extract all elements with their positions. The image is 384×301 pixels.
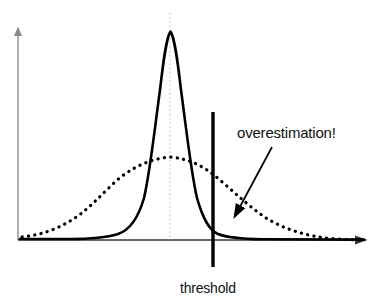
- overestimation-label: overestimation!: [237, 124, 336, 141]
- plot-canvas: [0, 0, 384, 301]
- threshold-label: threshold: [180, 280, 236, 296]
- distribution-figure: overestimation! threshold: [0, 0, 384, 301]
- overestimation-arrow: [235, 147, 272, 216]
